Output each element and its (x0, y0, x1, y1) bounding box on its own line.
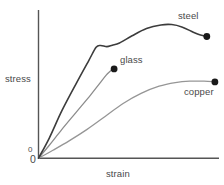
y-axis-label: stress (5, 73, 31, 84)
endpoint-marker-steel (203, 33, 210, 40)
endpoint-marker-copper (212, 78, 219, 85)
curve-steel (39, 24, 207, 158)
x-axis-label: strain (106, 168, 130, 179)
stress-strain-chart: stress strain steel glass copper 0 0 (0, 0, 224, 185)
origin-label-lower: 0 (30, 153, 36, 165)
series-label-glass: glass (120, 54, 143, 65)
series-label-copper: copper (184, 86, 214, 97)
series-label-steel: steel (178, 10, 199, 21)
endpoint-marker-glass (111, 66, 118, 73)
